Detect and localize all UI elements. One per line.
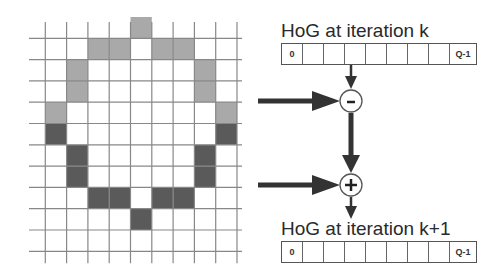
grid-cell-light [67, 81, 88, 102]
grid-cell-light [109, 38, 130, 59]
grid-cell-dark [109, 187, 130, 208]
histogram-bin [345, 242, 366, 262]
grid-cell-light [131, 17, 152, 38]
grid-cell-dark [67, 145, 88, 166]
histogram-top: 0Q-1 [281, 43, 477, 65]
grid-cell-light [194, 60, 215, 81]
histogram-bin [345, 44, 366, 64]
grid-cell-dark [45, 124, 66, 145]
grid-cell-dark [67, 166, 88, 187]
histogram-bin [429, 44, 450, 64]
arrows [258, 64, 360, 219]
subtract-operator-icon [340, 90, 362, 112]
histogram-bin: 0 [282, 44, 303, 64]
histogram-bin [429, 242, 450, 262]
histogram-bin [303, 242, 324, 262]
histogram-bin [366, 44, 387, 64]
grid-cell-dark [131, 209, 152, 230]
arrow-to-subtract-icon [312, 91, 340, 111]
histogram-bin [366, 242, 387, 262]
grid-cell-dark [194, 145, 215, 166]
grid-cell-light [67, 60, 88, 81]
grid-cell-dark [216, 124, 237, 145]
grid-cell-light [173, 38, 194, 59]
grid-cell-light [216, 102, 237, 123]
histogram-bin: Q-1 [450, 242, 476, 262]
histogram-bin [324, 242, 345, 262]
histogram-top-title: HoG at iteration k [281, 20, 429, 42]
add-operator-icon [340, 174, 362, 196]
histogram-bin: Q-1 [450, 44, 476, 64]
histogram-bin [408, 242, 429, 262]
arrow-down-icon [345, 76, 357, 89]
grid-cell-dark [88, 187, 109, 208]
histogram-bin [387, 44, 408, 64]
histogram-bin [324, 44, 345, 64]
grid-cell-dark [194, 166, 215, 187]
histogram-bottom: 0Q-1 [281, 241, 477, 263]
arrow-down-icon [342, 155, 360, 173]
histogram-bottom-title: HoG at iteration k+1 [281, 218, 451, 240]
grid-cell-dark [173, 187, 194, 208]
grid-cell-light [194, 81, 215, 102]
arrow-to-add-icon [312, 175, 340, 195]
grid-cell-light [152, 38, 173, 59]
histogram-bin [408, 44, 429, 64]
hog-update-diagram: HoG at iteration k 0Q-1 HoG at iteration… [0, 0, 490, 280]
histogram-bin [303, 44, 324, 64]
histogram-bin: 0 [282, 242, 303, 262]
grid-cell-light [45, 102, 66, 123]
grid-cell-light [88, 38, 109, 59]
histogram-bin [387, 242, 408, 262]
grid-cell-dark [152, 187, 173, 208]
